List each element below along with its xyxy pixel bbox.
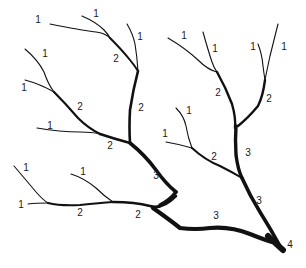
stream-order-2	[54, 92, 100, 134]
stream-order-1	[166, 142, 192, 148]
order-label: 1	[93, 9, 99, 19]
stream-order-1	[14, 166, 48, 203]
stream-order-1	[265, 24, 278, 80]
order-label: 2	[138, 103, 144, 113]
stream-order-2	[217, 72, 235, 128]
stream-order-2	[238, 80, 265, 126]
stream-order-1	[258, 44, 265, 80]
stream-order-3	[242, 178, 280, 246]
stream-order-2	[48, 202, 113, 205]
order-label: 1	[281, 42, 287, 52]
order-label: 1	[137, 32, 143, 42]
stream-order-diagram: 1 1 1 2 1 1 2 2 1 2 3 1 1 1 2 2 3 4 1 1 …	[0, 0, 306, 268]
order-label: 1	[18, 200, 24, 210]
order-label: 2	[135, 210, 141, 220]
stream-network-drawing	[0, 0, 306, 268]
order-label: 1	[212, 44, 218, 54]
order-label: 3	[256, 196, 262, 206]
stream-order-1	[71, 174, 113, 202]
stream-order-3	[236, 126, 243, 178]
order-label: 3	[245, 148, 251, 158]
order-label: 1	[181, 31, 187, 41]
order-label: 3	[213, 211, 219, 221]
order-label: 2	[77, 102, 83, 112]
order-label: 3	[153, 171, 159, 181]
stream-order-1	[28, 203, 48, 204]
order-label: 2	[113, 54, 119, 64]
stream-order-3	[130, 143, 176, 192]
order-label: 4	[287, 240, 293, 250]
stream-order-1	[25, 49, 54, 92]
order-label: 1	[47, 121, 53, 131]
order-label: 2	[211, 152, 217, 162]
order-label: 2	[77, 208, 83, 218]
stream-order-1	[50, 24, 110, 38]
order-label: 1	[250, 42, 256, 52]
order-label: 1	[23, 163, 29, 173]
stream-order-2	[100, 134, 130, 143]
order-label: 2	[215, 88, 221, 98]
order-label: 2	[266, 94, 272, 104]
order-label: 1	[21, 83, 27, 93]
order-label: 2	[107, 141, 113, 151]
stream-order-2	[130, 71, 139, 143]
order-label: 1	[35, 15, 41, 25]
order-label: 1	[162, 129, 168, 139]
order-label: 1	[42, 49, 48, 59]
order-label: 1	[186, 106, 192, 116]
order-label: 1	[80, 167, 86, 177]
